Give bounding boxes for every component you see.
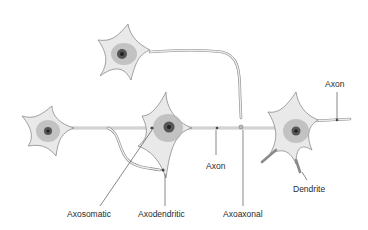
- label-axon-top: Axon: [325, 80, 344, 89]
- label-axosomatic: Axosomatic: [67, 210, 111, 219]
- left-neuron: [22, 106, 74, 156]
- neuron-diagram: [0, 0, 368, 230]
- middle-neuron: [138, 92, 192, 178]
- top-neuron: [98, 24, 150, 80]
- label-axodendritic: Axodendritic: [138, 210, 185, 219]
- right-neuron: [262, 92, 318, 172]
- label-dendrite: Dendrite: [293, 185, 325, 194]
- label-axoaxonal: Axoaxonal: [223, 210, 263, 219]
- label-axon-middle: Axon: [206, 162, 225, 171]
